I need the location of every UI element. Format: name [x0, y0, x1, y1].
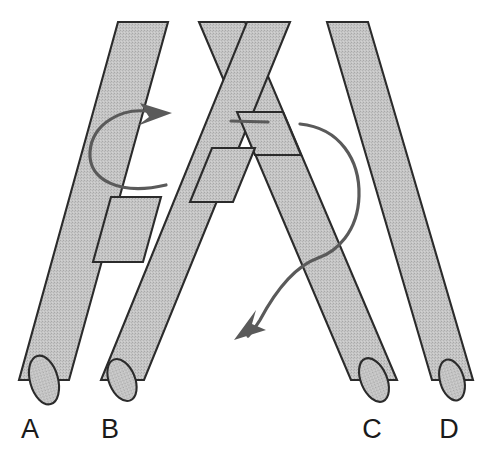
- diagram-canvas: A B C D: [0, 0, 498, 468]
- rod-label-b: B: [101, 414, 119, 444]
- rod-label-d: D: [439, 414, 459, 444]
- rod-label-a: A: [21, 414, 39, 444]
- woven-rods-svg: A B C D: [0, 0, 498, 468]
- right-sweep-arrow-stub: [231, 121, 268, 122]
- rod-label-c: C: [362, 414, 382, 444]
